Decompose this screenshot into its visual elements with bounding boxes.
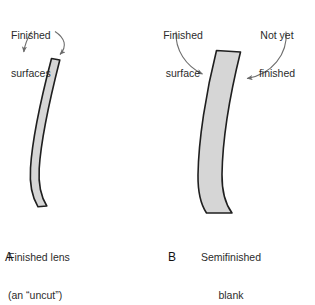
caption-semifinished-blank-line1: Semifinished <box>196 251 266 264</box>
annotation-finished-surface: Finished surface <box>152 4 214 92</box>
annotation-not-yet-finished: Not yet finished <box>246 4 308 92</box>
caption-finished-lens-line2: (an “uncut”) <box>8 289 70 302</box>
annotation-finished-surface-line2: surface <box>152 67 214 80</box>
panel-letter-b: B <box>168 251 176 264</box>
caption-finished-lens: Finished lens (an “uncut”) <box>8 226 70 305</box>
annotation-not-yet-finished-line1: Not yet <box>246 29 308 42</box>
arrow-to-front-surface-path <box>55 32 64 55</box>
caption-semifinished-blank-line2: blank <box>196 289 266 302</box>
annotation-finished-surfaces-line2: surfaces <box>11 67 51 80</box>
annotation-finished-surface-line1: Finished <box>152 29 214 42</box>
panel-letter-a: A <box>5 251 13 264</box>
annotation-finished-surfaces: Finished surfaces <box>11 4 51 92</box>
caption-finished-lens-line1: Finished lens <box>8 251 70 264</box>
caption-semifinished-blank: Semifinished blank <box>196 226 266 305</box>
annotation-finished-surfaces-line1: Finished <box>11 29 51 42</box>
annotation-not-yet-finished-line2: finished <box>246 67 308 80</box>
